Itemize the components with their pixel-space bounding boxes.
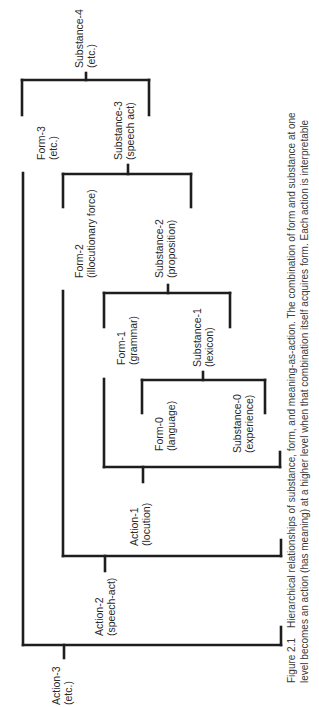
label-action-2: Action-2(speech-act) (93, 578, 117, 636)
label-substance-3: Substance-3(speech act) (112, 101, 136, 160)
figure-caption: Figure 2.1Hierarchical relationships of … (285, 112, 311, 683)
label-subtitle: (lexicon) (203, 308, 215, 367)
label-substance-2: Substance-2(proposition) (153, 219, 177, 278)
label-subtitle: (speech-act) (105, 578, 117, 636)
figure-number: Figure 2.1 (286, 638, 297, 683)
label-title: Substance-0 (231, 394, 243, 453)
caption-line-2: level becomes an action (has meaning) at… (298, 112, 311, 683)
label-subtitle: (grammar) (127, 316, 139, 365)
label-title: Substance-2 (153, 219, 165, 278)
figure-2-1: Substance-4(etc.)Form-3(etc.)Substance-3… (0, 0, 319, 707)
label-form-3: Form-3(etc.) (35, 126, 59, 160)
label-title: Form-1 (115, 316, 127, 365)
label-subtitle: (locution) (140, 503, 152, 546)
label-substance-4: Substance-4(etc.) (73, 9, 97, 68)
label-title: Substance-3 (112, 101, 124, 160)
label-title: Form-3 (35, 126, 47, 160)
label-subtitle: (speech act) (124, 101, 136, 160)
label-subtitle: (etc.) (62, 666, 74, 705)
label-subtitle: (experience) (243, 394, 255, 453)
hierarchy-diagram (0, 0, 319, 707)
label-action-3: Action-3(etc.) (50, 666, 74, 705)
label-subtitle: (etc.) (85, 9, 97, 68)
label-action-1: Action-1(locution) (128, 503, 152, 546)
label-title: Action-1 (128, 503, 140, 546)
label-form-2: Form-2(illocutionary force) (73, 189, 97, 278)
label-subtitle: (language) (165, 401, 177, 451)
label-title: Form-0 (153, 401, 165, 451)
label-subtitle: (proposition) (165, 219, 177, 278)
label-substance-1: Substance-1(lexicon) (191, 308, 215, 367)
label-subtitle: (illocutionary force) (85, 189, 97, 278)
label-title: Substance-4 (73, 9, 85, 68)
label-title: Action-3 (50, 666, 62, 705)
label-title: Action-2 (93, 578, 105, 636)
caption-line-1: Figure 2.1Hierarchical relationships of … (285, 112, 298, 683)
label-title: Substance-1 (191, 308, 203, 367)
label-substance-0: Substance-0(experience) (231, 394, 255, 453)
label-form-0: Form-0(language) (153, 401, 177, 451)
label-subtitle: (etc.) (47, 126, 59, 160)
label-form-1: Form-1(grammar) (115, 316, 139, 365)
label-title: Form-2 (73, 189, 85, 278)
caption-text-1: Hierarchical relationships of substance,… (286, 112, 297, 628)
